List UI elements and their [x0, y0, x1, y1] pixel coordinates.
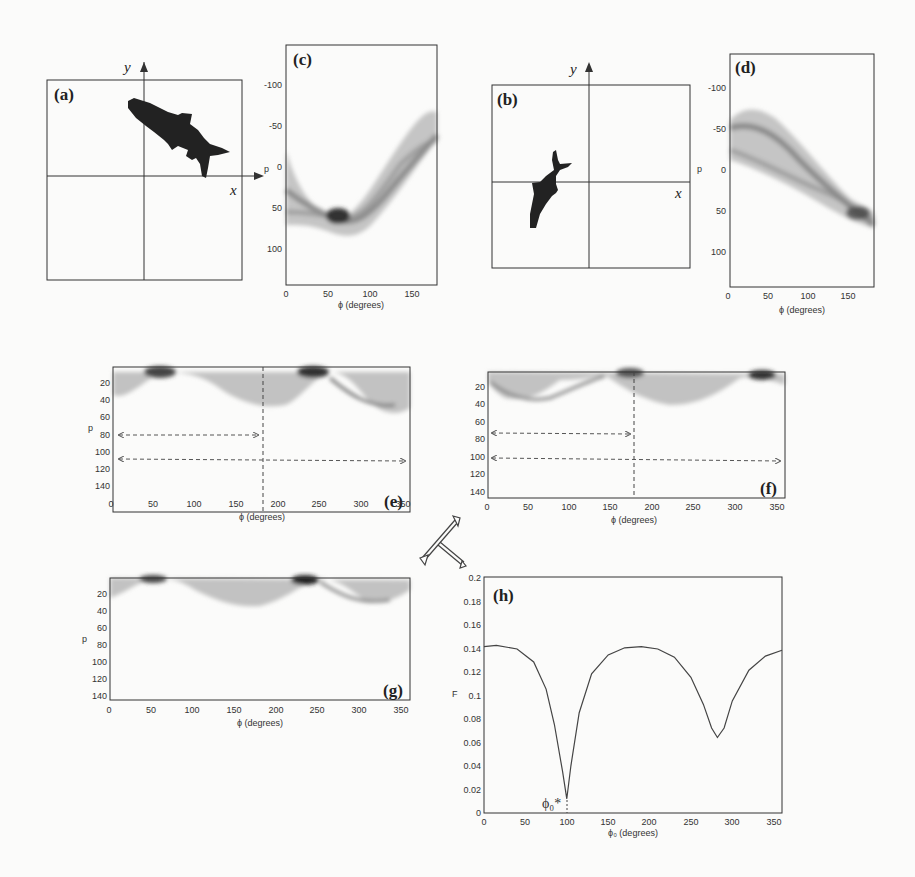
xtick-e-2: 100 — [186, 499, 201, 509]
ytick-e-0: 20 — [100, 378, 110, 388]
xtick-h-1: 50 — [520, 817, 530, 827]
ytick-c-0: -100 — [264, 80, 282, 90]
ytick-e-4: 100 — [95, 447, 110, 457]
xtick-f-7: 350 — [769, 502, 784, 512]
ytick-h-9: 0.18 — [463, 597, 481, 607]
xtick-g-4: 200 — [268, 705, 283, 715]
xtick-g-2: 100 — [184, 705, 199, 715]
xlabel-e: ϕ (degrees) — [239, 512, 285, 522]
fish-silhouette-b — [530, 150, 572, 228]
panel-g: (g) 20 40 60 80 100 120 140 p 0 50 100 1… — [82, 575, 410, 728]
xtick-h-4: 200 — [641, 817, 656, 827]
xtick-c-2: 100 — [362, 289, 377, 299]
xtick-h-3: 150 — [600, 817, 615, 827]
xtick-d-1: 50 — [763, 291, 773, 301]
ytick-d-2: 0 — [721, 165, 726, 175]
panel-d: (d) -100 -50 0 50 100 p 0 50 100 150 ϕ (… — [697, 54, 874, 315]
transform-arrows-icon — [420, 516, 466, 568]
ylabel-e: p — [88, 423, 93, 433]
panel-a: y x (a) — [47, 59, 264, 280]
phi0-star-annotation: ϕ₀* — [542, 796, 561, 811]
ylabel-g: p — [82, 634, 87, 644]
ytick-h-2: 0.04 — [463, 761, 481, 771]
panel-label-g: (g) — [383, 681, 403, 700]
xtick-c-1: 50 — [323, 289, 333, 299]
figure-canvas: y x (a) (c) -100 -50 0 50 100 p 0 50 100… — [0, 0, 915, 877]
ytick-f-5: 120 — [470, 469, 485, 479]
ytick-g-1: 40 — [97, 606, 107, 616]
xtick-f-3: 150 — [602, 502, 617, 512]
dashed-arrow-short — [492, 433, 630, 434]
ytick-e-2: 60 — [100, 412, 110, 422]
panel-f: (f) 20 40 60 80 100 120 140 0 50 100 150… — [470, 368, 785, 525]
panel-label-h: (h) — [493, 586, 514, 605]
xtick-e-0: 0 — [108, 499, 113, 509]
xtick-h-5: 250 — [683, 817, 698, 827]
ytick-c-4: 100 — [267, 244, 282, 254]
ylabel-d: p — [697, 164, 702, 174]
ytick-f-3: 80 — [475, 434, 485, 444]
ytick-g-3: 80 — [97, 640, 107, 650]
xtick-f-6: 300 — [727, 502, 742, 512]
panel-e: (e) 20 40 60 80 100 120 140 p 0 50 100 1… — [88, 366, 411, 522]
xtick-c-3: 150 — [404, 289, 419, 299]
ytick-h-3: 0.06 — [463, 738, 481, 748]
ytick-c-2: 0 — [277, 162, 282, 172]
xtick-f-5: 250 — [685, 502, 700, 512]
xtick-g-6: 300 — [351, 705, 366, 715]
x-axis-label: x — [229, 182, 237, 198]
xtick-h-7: 350 — [766, 817, 781, 827]
xtick-g-1: 50 — [146, 705, 156, 715]
ytick-h-5: 0.1 — [468, 691, 481, 701]
ytick-d-0: -100 — [708, 83, 726, 93]
ytick-g-2: 60 — [97, 623, 107, 633]
ytick-h-10: 0.2 — [468, 573, 481, 583]
xtick-e-3: 150 — [228, 499, 243, 509]
ytick-f-0: 20 — [475, 382, 485, 392]
ylabel-h: F — [452, 689, 458, 699]
panel-b: y x (b) — [492, 61, 690, 268]
y-axis-label: y — [122, 59, 131, 75]
xlabel-d: ϕ (degrees) — [779, 305, 825, 315]
ytick-e-1: 40 — [100, 395, 110, 405]
dashed-arrow-long — [119, 459, 405, 461]
xtick-h-2: 100 — [559, 817, 574, 827]
xtick-d-2: 100 — [800, 291, 815, 301]
xtick-e-1: 50 — [148, 499, 158, 509]
panel-label-a: (a) — [54, 85, 74, 104]
ytick-d-1: -50 — [713, 124, 726, 134]
ytick-g-5: 120 — [92, 674, 107, 684]
ytick-h-8: 0.16 — [463, 620, 481, 630]
ylabel-c: p — [264, 164, 269, 174]
sinogram-c — [286, 111, 437, 236]
ytick-f-2: 60 — [475, 417, 485, 427]
sinogram-e — [113, 366, 410, 413]
ytick-d-3: 50 — [716, 206, 726, 216]
panel-c: (c) -100 -50 0 50 100 p 0 50 100 150 ϕ (… — [264, 45, 437, 310]
ytick-d-4: 100 — [711, 247, 726, 257]
xtick-e-7: 350 — [395, 499, 410, 509]
ytick-f-6: 140 — [470, 487, 485, 497]
ytick-h-4: 0.08 — [463, 714, 481, 724]
xtick-e-5: 250 — [311, 499, 326, 509]
ytick-g-0: 20 — [97, 589, 107, 599]
xtick-e-6: 300 — [353, 499, 368, 509]
xtick-f-2: 100 — [561, 502, 576, 512]
ytick-c-1: -50 — [269, 121, 282, 131]
xtick-d-0: 0 — [725, 291, 730, 301]
ytick-c-3: 50 — [272, 203, 282, 213]
ytick-e-5: 120 — [95, 464, 110, 474]
ytick-h-1: 0.02 — [463, 785, 481, 795]
xlabel-g: ϕ (degrees) — [237, 718, 283, 728]
panel-label-b: (b) — [497, 90, 518, 109]
ytick-h-6: 0.12 — [463, 667, 481, 677]
y-axis-label: y — [568, 61, 577, 77]
ytick-f-1: 40 — [475, 399, 485, 409]
xlabel-c: ϕ (degrees) — [338, 300, 384, 310]
panel-label-d: (d) — [735, 58, 756, 77]
ytick-g-6: 140 — [92, 691, 107, 701]
sinogram-g — [110, 575, 410, 606]
sinogram-f — [488, 368, 785, 405]
x-axis-arrow-icon — [254, 172, 264, 180]
xtick-f-0: 0 — [484, 502, 489, 512]
